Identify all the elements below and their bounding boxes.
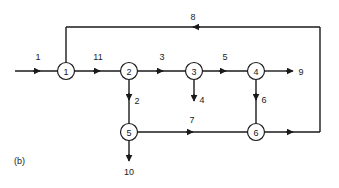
- edge-label-4: 4: [199, 95, 204, 105]
- signal-flow-graph: 1 11 3 5 9 2: [0, 0, 339, 188]
- edge-4: 4: [194, 80, 205, 106]
- edge-label-7: 7: [189, 115, 194, 125]
- node-1[interactable]: 1: [58, 63, 75, 80]
- edge-7: 7: [138, 115, 248, 132]
- node-6[interactable]: 6: [248, 124, 265, 141]
- edge-label-10: 10: [124, 167, 134, 177]
- figure-canvas: 1 11 3 5 9 2: [0, 0, 339, 188]
- node-3[interactable]: 3: [186, 63, 203, 80]
- edge-label-6: 6: [261, 95, 266, 105]
- node-6-label: 6: [253, 128, 258, 138]
- edge-1: 1: [15, 52, 58, 71]
- edge-label-1: 1: [35, 52, 40, 62]
- edge-9: 9: [265, 67, 304, 77]
- edge-label-11: 11: [93, 52, 102, 62]
- node-1-label: 1: [63, 67, 68, 77]
- edge-5: 5: [203, 52, 248, 71]
- edge-10: 10: [124, 141, 134, 178]
- node-3-label: 3: [191, 67, 196, 77]
- edge-6: 6: [256, 80, 267, 124]
- node-2-label: 2: [126, 67, 131, 77]
- node-2[interactable]: 2: [121, 63, 138, 80]
- edge-3: 3: [138, 52, 186, 71]
- node-5-label: 5: [126, 128, 131, 138]
- edge-label-5: 5: [222, 52, 227, 62]
- edge-label-2: 2: [134, 96, 139, 106]
- edge-label-8: 8: [190, 12, 195, 22]
- node-5[interactable]: 5: [121, 124, 138, 141]
- node-4-label: 4: [253, 67, 258, 77]
- edge-label-9: 9: [298, 67, 303, 77]
- edge-11: 11: [75, 52, 121, 71]
- node-4[interactable]: 4: [248, 63, 265, 80]
- edge-label-3: 3: [159, 52, 164, 62]
- edge-2: 2: [129, 80, 140, 124]
- figure-caption: (b): [14, 156, 25, 166]
